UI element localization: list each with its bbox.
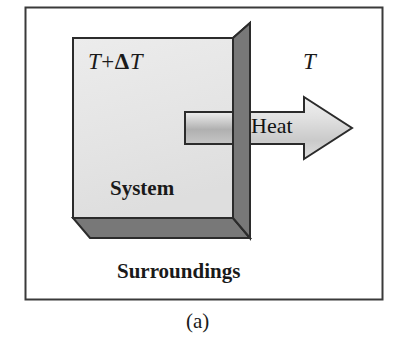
figure-caption: (a) [186, 311, 209, 332]
box-bottom-face [73, 218, 250, 238]
system-label: System [110, 178, 174, 199]
cold-temperature-label: T [303, 50, 316, 73]
surroundings-label: Surroundings [117, 261, 240, 282]
hot-temperature-symbol: T [88, 49, 101, 74]
figure-graphics [0, 0, 408, 347]
box-side-face-overlay [233, 23, 250, 238]
delta-symbol: Δ [115, 49, 130, 74]
hot-temperature-operator: + [101, 49, 114, 74]
hot-temperature-delta-symbol: T [130, 49, 143, 74]
thermodynamics-figure: T+ΔT T Heat System Surroundings (a) [0, 0, 408, 347]
heat-arrow-shaft-inside [185, 112, 233, 144]
heat-arrow-label: Heat [251, 115, 293, 137]
hot-temperature-label: T+ΔT [88, 50, 143, 73]
